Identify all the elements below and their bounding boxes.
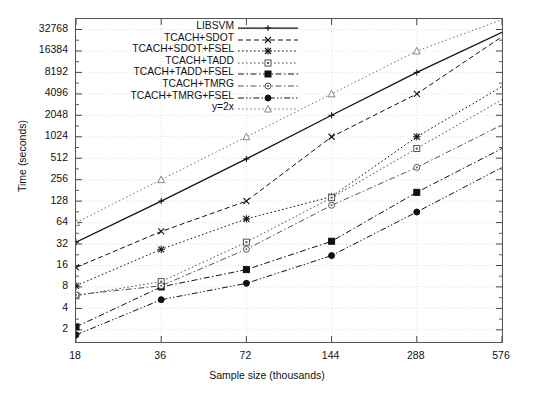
- legend-item[interactable]: TCACH+TADD: [78, 55, 300, 67]
- series-tcach-sdot-fsel: [76, 87, 502, 290]
- y-tick-label: 4: [4, 302, 68, 313]
- legend-key: [236, 55, 300, 67]
- legend: LIBSVMTCACH+SDOTTCACH+SDOT+FSELTCACH+TAD…: [78, 20, 300, 113]
- y-tick-label: 2: [4, 323, 68, 334]
- x-tick-label: 36: [130, 350, 190, 361]
- legend-key: [236, 43, 300, 55]
- y-tick-label: 8: [4, 280, 68, 291]
- x-tick-label: 288: [386, 350, 446, 361]
- legend-key: [236, 32, 300, 44]
- x-tick-label: 144: [301, 350, 361, 361]
- legend-item[interactable]: TCACH+SDOT: [78, 32, 300, 44]
- legend-key: [236, 101, 300, 113]
- legend-key: [236, 90, 300, 102]
- x-tick-label: 72: [215, 350, 275, 361]
- legend-key: [236, 66, 300, 78]
- x-tick-label: 576: [471, 350, 531, 361]
- legend-item[interactable]: TCACH+SDOT+FSEL: [78, 43, 300, 55]
- y-tick-label: 4096: [4, 87, 68, 98]
- series-tcach-tmrg-fsel: [76, 167, 502, 337]
- y-tick-label: 8192: [4, 66, 68, 77]
- legend-item[interactable]: TCACH+TADD+FSEL: [78, 66, 300, 78]
- legend-label: y=2x: [212, 101, 234, 113]
- legend-label: TCACH+SDOT+FSEL: [132, 43, 234, 55]
- y-tick-label: 32768: [4, 23, 68, 34]
- legend-item[interactable]: y=2x: [78, 101, 300, 113]
- legend-label: TCACH+TMRG: [162, 78, 234, 90]
- y-tick-label: 32: [4, 238, 68, 249]
- legend-label: TCACH+SDOT: [164, 32, 234, 44]
- chart-root: Time (seconds) Sample size (thousands) 2…: [0, 0, 534, 393]
- legend-item[interactable]: TCACH+TMRG+FSEL: [78, 90, 300, 102]
- y-tick-label: 64: [4, 216, 68, 227]
- y-tick-label: 512: [4, 152, 68, 163]
- legend-label: LIBSVM: [196, 20, 234, 32]
- x-tick-label: 18: [45, 350, 105, 361]
- y-tick-label: 16: [4, 259, 68, 270]
- legend-item[interactable]: TCACH+TMRG: [78, 78, 300, 90]
- legend-key: [236, 20, 300, 32]
- legend-label: TCACH+TMRG+FSEL: [130, 90, 234, 102]
- y-tick-label: 2048: [4, 109, 68, 120]
- y-tick-label: 128: [4, 195, 68, 206]
- legend-label: TCACH+TADD+FSEL: [133, 66, 234, 78]
- series-tcach-tadd-fsel: [76, 149, 502, 330]
- y-tick-label: 16384: [4, 44, 68, 55]
- legend-label: TCACH+TADD: [165, 55, 234, 67]
- y-tick-label: 1024: [4, 130, 68, 141]
- legend-key: [236, 78, 300, 90]
- y-tick-label: 256: [4, 173, 68, 184]
- legend-item[interactable]: LIBSVM: [78, 20, 300, 32]
- x-axis-title: Sample size (thousands): [0, 369, 534, 381]
